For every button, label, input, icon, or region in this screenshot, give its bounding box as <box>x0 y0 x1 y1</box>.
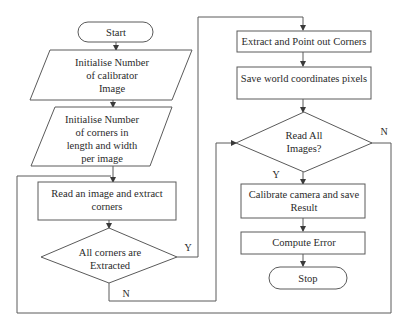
node-calibrate-line-2: Result <box>291 202 318 213</box>
node-extract-points-label: Extract and Point out Corners <box>242 36 367 47</box>
node-all-corners-line-1: All corners are <box>79 247 142 258</box>
node-compute-error: Compute Error <box>241 232 365 254</box>
node-read-image-line-2: corners <box>92 201 123 212</box>
node-init-corners-line-4: per image <box>81 153 123 164</box>
node-calibrate-line-1: Calibrate camera and save <box>249 189 360 200</box>
label-all-corners-no: N <box>122 288 129 299</box>
node-init-images: Initialise Number of calibrator Image <box>30 50 192 100</box>
node-save-world-label: Save world coordinates pixels <box>241 73 367 84</box>
node-init-images-line-3: Image <box>99 83 126 94</box>
node-init-images-line-1: Initialise Number <box>75 57 149 68</box>
label-read-all-no: N <box>380 126 387 137</box>
label-all-corners-yes: Y <box>184 242 191 253</box>
node-init-corners-line-1: Initialise Number <box>65 114 139 125</box>
node-calibrate: Calibrate camera and save Result <box>241 184 365 218</box>
node-start: Start <box>78 22 153 42</box>
node-read-all-line-2: Images? <box>287 143 322 154</box>
node-read-image: Read an image and extract corners <box>38 182 176 220</box>
node-save-world: Save world coordinates pixels <box>237 67 371 99</box>
flowchart-canvas: Start Initialise Number of calibrator Im… <box>0 0 402 327</box>
label-read-all-yes: Y <box>272 169 279 180</box>
node-init-corners-line-2: of corners in <box>75 127 129 138</box>
node-stop: Stop <box>269 267 347 289</box>
node-read-image-line-1: Read an image and extract <box>51 188 162 199</box>
node-all-corners-line-2: Extracted <box>90 260 131 271</box>
node-read-all: Read All Images? <box>236 112 372 172</box>
node-start-label: Start <box>106 27 126 38</box>
node-extract-points: Extract and Point out Corners <box>237 31 371 52</box>
node-compute-error-label: Compute Error <box>272 237 336 248</box>
arrow-all-corners-no <box>109 143 236 301</box>
node-init-images-line-2: of calibrator <box>86 70 138 81</box>
node-stop-label: Stop <box>298 273 317 284</box>
node-init-corners-line-3: length and width <box>67 140 138 151</box>
node-init-corners: Initialise Number of corners in length a… <box>31 107 172 166</box>
node-all-corners: All corners are Extracted <box>41 228 177 283</box>
node-read-all-line-1: Read All <box>285 130 322 141</box>
